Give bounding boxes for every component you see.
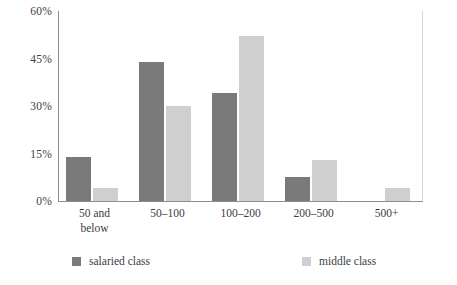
bar-middle (166, 106, 191, 201)
legend-swatch-middle-icon (302, 257, 311, 266)
bar-group (204, 11, 277, 201)
bar-group (350, 11, 423, 201)
x-axis-category-label-line1: 500+ (349, 206, 425, 221)
x-axis-category-label-line2: below (57, 221, 133, 236)
y-axis-tick-label: 45% (6, 53, 52, 65)
x-axis-category-label: 50 andbelow (57, 206, 133, 236)
bar-middle (239, 36, 264, 201)
y-axis-tick-label: 0% (6, 195, 52, 207)
x-axis-category-label-line1: 100–200 (203, 206, 279, 221)
x-axis-category-label: 500+ (349, 206, 425, 221)
plot-area (58, 11, 423, 202)
y-axis-labels: 60%45%30%15%0% (0, 0, 52, 210)
x-axis-category-label: 100–200 (203, 206, 279, 221)
x-axis-category-label-line1: 200–500 (276, 206, 352, 221)
bar-salaried (212, 93, 237, 201)
bar-middle (312, 160, 337, 201)
y-axis-tick-label: 60% (6, 5, 52, 17)
y-axis-tick-label: 30% (6, 100, 52, 112)
bar-group (277, 11, 350, 201)
legend-item-label: salaried class (89, 254, 150, 268)
bar-middle (93, 188, 118, 201)
bar-chart: 60%45%30%15%0% 50 andbelow50–100100–2002… (0, 0, 457, 285)
legend-item-middle-class[interactable]: middle class (302, 254, 376, 268)
bar-salaried (285, 177, 310, 201)
y-axis-tick-label: 15% (6, 148, 52, 160)
x-axis-category-label: 50–100 (130, 206, 206, 221)
x-axis-line (58, 201, 423, 202)
legend-swatch-salaried-icon (72, 257, 81, 266)
x-axis-category-label: 200–500 (276, 206, 352, 221)
legend-item-salaried-class[interactable]: salaried class (72, 254, 150, 268)
chart-legend: salaried classmiddle class (0, 254, 457, 278)
bar-middle (385, 188, 410, 201)
x-axis-category-label-line1: 50–100 (130, 206, 206, 221)
x-axis-category-label-line1: 50 and (57, 206, 133, 221)
bar-group (58, 11, 131, 201)
bar-salaried (139, 62, 164, 201)
bar-group (131, 11, 204, 201)
legend-item-label: middle class (319, 254, 376, 268)
bar-salaried (66, 157, 91, 201)
